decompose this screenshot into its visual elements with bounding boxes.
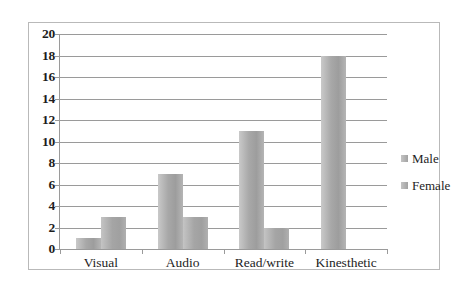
y-tick-mark-8 [55,163,60,164]
chart-frame: 02468101214161820 VisualAudioRead/writeK… [28,22,440,270]
bar-kinesthetic-male [321,56,346,250]
y-tick-mark-2 [55,228,60,229]
y-tick-label-20: 20 [42,27,55,41]
y-tick-label-12: 12 [42,113,55,127]
bar-read-write-male [239,131,264,249]
bar-visual-female [101,217,126,249]
bar-visual-male [76,238,101,249]
legend-swatch-female-icon [401,182,408,189]
y-tick-label-14: 14 [42,92,55,106]
bar-audio-female [183,217,208,249]
legend-swatch-male-icon [401,155,408,162]
chart-plot-wrapper: 02468101214161820 VisualAudioRead/writeK… [29,23,439,269]
x-axis-label-kinesthetic: Kinesthetic [315,254,376,273]
y-tick-mark-18 [55,56,60,57]
x-axis-label-read-write: Read/write [235,254,294,273]
legend-label-female: Female [412,179,450,192]
x-axis-label-audio: Audio [166,254,200,273]
x-axis-label-visual: Visual [84,254,118,273]
y-tick-mark-14 [55,99,60,100]
y-axis-tick-labels: 02468101214161820 [29,23,55,269]
y-tick-label-10: 10 [42,135,55,149]
y-tick-mark-16 [55,77,60,78]
chart-legend: MaleFemale [401,151,459,205]
bar-read-write-female [264,228,289,250]
y-tick-mark-20 [55,34,60,35]
bar-audio-male [158,174,183,249]
bars-layer [60,34,387,249]
plot-area [60,34,387,249]
x-axis-category-labels: VisualAudioRead/writeKinesthetic [60,254,387,278]
y-tick-label-18: 18 [42,49,55,63]
y-tick-mark-10 [55,142,60,143]
x-tick-mark-3 [387,249,388,254]
y-tick-mark-4 [55,206,60,207]
y-tick-label-16: 16 [42,70,55,84]
legend-label-male: Male [412,152,439,165]
y-tick-mark-6 [55,185,60,186]
legend-item-female[interactable]: Female [401,178,459,193]
legend-item-male[interactable]: Male [401,151,459,166]
y-tick-mark-12 [55,120,60,121]
